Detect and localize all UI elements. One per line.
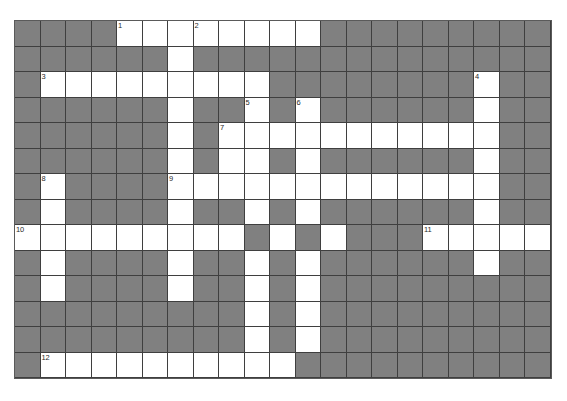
crossword-cell-open[interactable]: [92, 353, 118, 379]
crossword-cell-open[interactable]: [474, 200, 500, 226]
crossword-cell-open[interactable]: [245, 72, 271, 98]
crossword-cell-open[interactable]: [474, 98, 500, 124]
crossword-cell-open[interactable]: [219, 21, 245, 47]
crossword-cell-open[interactable]: [219, 225, 245, 251]
crossword-cell-open[interactable]: [92, 225, 118, 251]
crossword-cell-open[interactable]: [245, 200, 271, 226]
crossword-cell-open[interactable]: [423, 123, 449, 149]
crossword-cell-open[interactable]: [143, 225, 169, 251]
crossword-cell-open[interactable]: [449, 123, 475, 149]
crossword-cell-open[interactable]: [219, 353, 245, 379]
crossword-cell-open[interactable]: [474, 123, 500, 149]
crossword-cell-open[interactable]: [270, 21, 296, 47]
crossword-cell-open[interactable]: [474, 149, 500, 175]
crossword-cell-open[interactable]: [423, 174, 449, 200]
crossword-cell-open[interactable]: [270, 353, 296, 379]
crossword-cell-open[interactable]: [219, 174, 245, 200]
crossword-cell-open[interactable]: [449, 225, 475, 251]
crossword-cell-open[interactable]: [66, 353, 92, 379]
crossword-cell-open[interactable]: [194, 353, 220, 379]
crossword-cell-open[interactable]: [500, 225, 526, 251]
crossword-cell-open[interactable]: [347, 174, 373, 200]
crossword-cell-open[interactable]: [296, 200, 322, 226]
crossword-cell-open[interactable]: 8: [41, 174, 67, 200]
crossword-grid[interactable]: 123456789101112: [15, 21, 551, 378]
crossword-cell-open[interactable]: [270, 174, 296, 200]
crossword-cell-open[interactable]: [398, 174, 424, 200]
crossword-cell-open[interactable]: [117, 225, 143, 251]
crossword-cell-open[interactable]: [117, 72, 143, 98]
crossword-cell-open[interactable]: 4: [474, 72, 500, 98]
crossword-cell-open[interactable]: [245, 327, 271, 353]
crossword-cell-open[interactable]: [194, 225, 220, 251]
crossword-cell-open[interactable]: [168, 21, 194, 47]
crossword-cell-open[interactable]: [143, 21, 169, 47]
crossword-cell-open[interactable]: [41, 225, 67, 251]
crossword-cell-open[interactable]: [474, 251, 500, 277]
crossword-cell-open[interactable]: [245, 302, 271, 328]
crossword-cell-open[interactable]: [245, 353, 271, 379]
crossword-cell-open[interactable]: [245, 21, 271, 47]
crossword-cell-open[interactable]: [296, 174, 322, 200]
crossword-cell-open[interactable]: 2: [194, 21, 220, 47]
crossword-cell-open[interactable]: [41, 200, 67, 226]
crossword-cell-open[interactable]: [168, 149, 194, 175]
crossword-cell-open[interactable]: [92, 72, 118, 98]
crossword-cell-open[interactable]: [347, 123, 373, 149]
crossword-cell-open[interactable]: [321, 123, 347, 149]
crossword-cell-open[interactable]: [219, 72, 245, 98]
crossword-cell-open[interactable]: 11: [423, 225, 449, 251]
crossword-cell-open[interactable]: [321, 225, 347, 251]
crossword-cell-open[interactable]: [194, 72, 220, 98]
crossword-cell-open[interactable]: [66, 72, 92, 98]
crossword-cell-open[interactable]: [296, 302, 322, 328]
crossword-cell-open[interactable]: 12: [41, 353, 67, 379]
crossword-cell-open[interactable]: [168, 72, 194, 98]
crossword-cell-open[interactable]: [296, 251, 322, 277]
crossword-cell-open[interactable]: [525, 225, 551, 251]
crossword-cell-open[interactable]: [168, 353, 194, 379]
crossword-cell-open[interactable]: [296, 123, 322, 149]
crossword-cell-open[interactable]: [270, 123, 296, 149]
crossword-cell-open[interactable]: [143, 353, 169, 379]
crossword-cell-open[interactable]: 7: [219, 123, 245, 149]
crossword-cell-open[interactable]: [168, 276, 194, 302]
crossword-cell-open[interactable]: [168, 47, 194, 73]
crossword-cell-open[interactable]: [474, 174, 500, 200]
crossword-cell-open[interactable]: [168, 225, 194, 251]
crossword-cell-open[interactable]: 1: [117, 21, 143, 47]
crossword-cell-open[interactable]: [245, 251, 271, 277]
crossword-cell-open[interactable]: [168, 251, 194, 277]
crossword-cell-open[interactable]: [143, 72, 169, 98]
crossword-cell-open[interactable]: [296, 21, 322, 47]
crossword-cell-open[interactable]: [270, 225, 296, 251]
crossword-cell-open[interactable]: [296, 276, 322, 302]
crossword-cell-open[interactable]: 10: [15, 225, 41, 251]
crossword-cell-open[interactable]: [194, 174, 220, 200]
crossword-cell-open[interactable]: [245, 149, 271, 175]
crossword-cell-open[interactable]: [474, 225, 500, 251]
crossword-cell-open[interactable]: [372, 123, 398, 149]
crossword-cell-open[interactable]: 5: [245, 98, 271, 124]
crossword-cell-open[interactable]: 9: [168, 174, 194, 200]
crossword-cell-open[interactable]: [449, 174, 475, 200]
crossword-cell-open[interactable]: 3: [41, 72, 67, 98]
crossword-cell-open[interactable]: [168, 98, 194, 124]
crossword-cell-open[interactable]: [296, 327, 322, 353]
crossword-cell-open[interactable]: 6: [296, 98, 322, 124]
crossword-cell-open[interactable]: [41, 251, 67, 277]
crossword-cell-open[interactable]: [66, 225, 92, 251]
crossword-cell-block: [321, 98, 347, 124]
crossword-cell-open[interactable]: [296, 149, 322, 175]
crossword-cell-open[interactable]: [321, 174, 347, 200]
crossword-cell-open[interactable]: [398, 123, 424, 149]
crossword-cell-open[interactable]: [219, 149, 245, 175]
crossword-cell-open[interactable]: [245, 174, 271, 200]
crossword-cell-open[interactable]: [372, 174, 398, 200]
crossword-cell-open[interactable]: [245, 276, 271, 302]
crossword-cell-open[interactable]: [117, 353, 143, 379]
crossword-cell-open[interactable]: [168, 123, 194, 149]
crossword-cell-open[interactable]: [245, 123, 271, 149]
crossword-cell-open[interactable]: [41, 276, 67, 302]
crossword-cell-open[interactable]: [168, 200, 194, 226]
